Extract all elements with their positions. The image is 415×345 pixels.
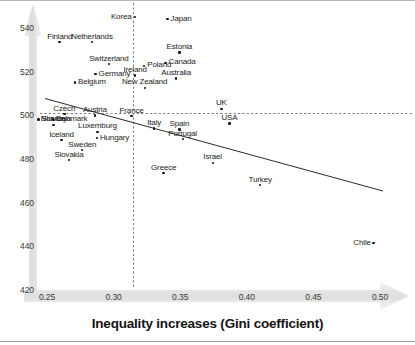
point-label: Sweden — [68, 140, 96, 149]
point-label: Norway — [41, 114, 67, 123]
point-label: Chile — [353, 238, 370, 247]
point-label: Slovakia — [54, 150, 83, 159]
point-label: Belgium — [78, 77, 106, 86]
data-point — [134, 74, 136, 76]
point-label: Canada — [169, 57, 196, 66]
data-point — [166, 18, 168, 20]
y-axis-arrow — [24, 4, 42, 297]
point-label: Israel — [203, 152, 222, 161]
x-axis-arrow — [24, 282, 409, 310]
point-label: Netherlands — [71, 32, 113, 41]
point-label: UK — [216, 98, 227, 107]
data-point — [94, 114, 96, 116]
x-tick-0.30: 0.30 — [97, 292, 131, 302]
point-label: Spain — [170, 119, 190, 128]
point-label: USA — [221, 113, 237, 122]
data-point — [178, 51, 180, 53]
point-label: Greece — [151, 163, 176, 172]
data-point — [372, 242, 374, 244]
point-label: Italy — [147, 118, 161, 127]
x-tick-0.25: 0.25 — [30, 292, 64, 302]
scatter-chart: 420440460480500520540 0.250.300.350.400.… — [0, 0, 415, 345]
x-axis-title: Inequality increases (Gini coefficient) — [0, 316, 415, 331]
data-point — [37, 118, 39, 120]
point-label: Turkey — [249, 175, 272, 184]
data-point — [52, 124, 54, 126]
y-tick-480: 480 — [20, 154, 34, 164]
data-point — [228, 122, 230, 124]
point-label: Hungary — [100, 133, 129, 142]
data-point — [74, 81, 76, 83]
data-point — [96, 131, 98, 133]
point-label: Ireland — [123, 65, 146, 74]
point-label: Iceland — [49, 130, 74, 139]
data-point — [220, 108, 222, 110]
bottom-divider — [0, 341, 415, 342]
y-tick-440: 440 — [20, 241, 34, 251]
point-label: Austria — [83, 105, 107, 114]
y-tick-460: 460 — [20, 198, 34, 208]
x-tick-0.45: 0.45 — [296, 292, 330, 302]
point-label: Switzerland — [89, 54, 129, 63]
data-point — [212, 162, 214, 164]
point-label: Japan — [171, 14, 192, 23]
y-tick-500: 500 — [20, 110, 34, 120]
point-label: Estonia — [167, 42, 193, 51]
x-tick-0.50: 0.50 — [363, 292, 397, 302]
y-tick-520: 520 — [20, 67, 34, 77]
x-tick-0.40: 0.40 — [230, 292, 264, 302]
data-point — [144, 87, 146, 89]
point-label: Finland — [47, 32, 72, 41]
point-label: France — [120, 106, 144, 115]
data-point — [60, 139, 62, 141]
point-label: Australia — [161, 68, 191, 77]
y-tick-540: 540 — [20, 23, 34, 33]
point-label: Czech — [53, 104, 75, 113]
point-label: Luxemburg — [78, 121, 117, 130]
point-label: Korea — [111, 12, 132, 21]
point-label: Portugal — [168, 129, 197, 138]
point-label: New Zealand — [122, 77, 168, 86]
x-tick-0.35: 0.35 — [163, 292, 197, 302]
